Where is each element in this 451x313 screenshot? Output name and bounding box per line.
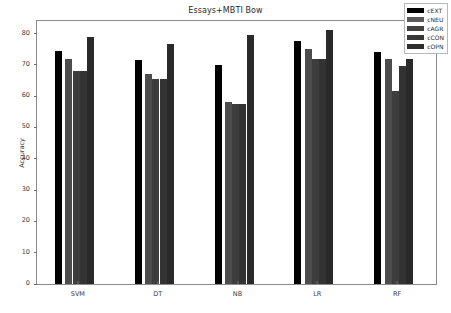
y-axis-tick-mark — [34, 190, 37, 191]
legend-swatch-icon — [407, 8, 424, 13]
y-axis-tick-label: 20 — [22, 216, 30, 224]
y-axis-tick-mark — [34, 221, 37, 222]
x-axis-tick-mark — [157, 281, 158, 284]
plot-area: Accuracy 01020304050607080SVMDTNBLRRF — [36, 20, 437, 285]
legend-item-copn[interactable]: cOPN — [407, 42, 444, 51]
legend-swatch-icon — [407, 17, 424, 22]
bar-nb-cext — [215, 65, 222, 284]
bar-svm-ccon — [80, 71, 87, 284]
legend-item-cext[interactable]: cEXT — [407, 6, 444, 15]
legend-swatch-icon — [407, 35, 424, 40]
legend-item-cagr[interactable]: cAGR — [407, 24, 444, 33]
bar-dt-ccon — [160, 79, 167, 284]
bar-svm-cext — [55, 51, 62, 284]
bar-dt-cagr — [152, 79, 159, 284]
bar-rf-cneu — [385, 59, 392, 284]
legend-item-cneu[interactable]: cNEU — [407, 15, 444, 24]
bar-svm-cneu — [65, 59, 72, 284]
plot-inner — [37, 21, 436, 284]
y-axis-tick-label: 60 — [22, 91, 30, 99]
legend-swatch-icon — [407, 44, 424, 49]
bar-svm-cagr — [73, 71, 80, 284]
bar-nb-ccon — [239, 104, 246, 284]
bar-rf-cext — [374, 52, 381, 284]
y-axis-tick-mark — [34, 127, 37, 128]
x-axis-tick-label-dt: DT — [153, 290, 162, 298]
chart-title: Essays+MBTI Bow — [0, 6, 451, 15]
bar-rf-ccon — [399, 66, 406, 284]
bar-lr-ccon — [319, 59, 326, 284]
legend-label: cAGR — [427, 24, 443, 33]
bar-nb-cagr — [232, 104, 239, 284]
y-axis-tick-mark — [34, 252, 37, 253]
bar-chart-figure: Essays+MBTI Bow Accuracy 010203040506070… — [0, 0, 451, 313]
y-axis-tick-mark — [34, 158, 37, 159]
y-axis-tick-label: 70 — [22, 60, 30, 68]
legend-label: cEXT — [427, 6, 442, 15]
x-axis-tick-mark — [317, 281, 318, 284]
x-axis-tick-mark — [77, 281, 78, 284]
x-axis-tick-mark — [237, 281, 238, 284]
legend-item-ccon[interactable]: cCON — [407, 33, 444, 42]
bar-lr-cagr — [312, 59, 319, 284]
bar-dt-cneu — [145, 74, 152, 284]
bar-lr-cext — [294, 41, 301, 284]
y-axis-tick-label: 0 — [26, 279, 30, 287]
bar-nb-copn — [247, 35, 254, 284]
chart-legend: cEXTcNEUcAGRcCONcOPN — [404, 3, 448, 54]
bar-dt-copn — [167, 44, 174, 284]
bar-rf-copn — [406, 59, 413, 284]
y-axis-tick-label: 30 — [22, 185, 30, 193]
bar-lr-cneu — [305, 49, 312, 284]
y-axis-tick-mark — [34, 33, 37, 34]
x-axis-tick-label-svm: SVM — [71, 290, 85, 298]
bar-lr-copn — [326, 30, 333, 284]
legend-label: cOPN — [427, 42, 443, 51]
x-axis-tick-label-rf: RF — [393, 290, 401, 298]
y-axis-tick-label: 50 — [22, 122, 30, 130]
legend-label: cCON — [427, 33, 444, 42]
bar-svm-copn — [87, 37, 94, 284]
y-axis-tick-mark — [34, 96, 37, 97]
x-axis-tick-label-lr: LR — [313, 290, 321, 298]
legend-swatch-icon — [407, 26, 424, 31]
y-axis-tick-label: 40 — [22, 154, 30, 162]
bar-dt-cext — [135, 60, 142, 284]
y-axis-tick-label: 80 — [22, 29, 30, 37]
y-axis-tick-mark — [34, 64, 37, 65]
y-axis-tick-mark — [34, 284, 37, 285]
x-axis-tick-label-nb: NB — [233, 290, 242, 298]
bar-nb-cneu — [225, 102, 232, 284]
bar-rf-cagr — [392, 91, 399, 284]
x-axis-tick-mark — [397, 281, 398, 284]
y-axis-label: Accuracy — [18, 138, 26, 168]
legend-label: cNEU — [427, 15, 443, 24]
y-axis-tick-label: 10 — [22, 248, 30, 256]
